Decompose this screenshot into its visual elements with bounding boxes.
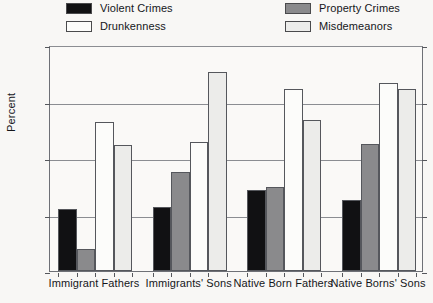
bar-native-born-fathers-violent-crimes xyxy=(247,190,266,271)
bar-chart: Violent Crimes Property Crimes Drunkenne… xyxy=(0,0,433,303)
legend-entry-property-crimes: Property Crimes xyxy=(285,3,400,14)
bar-immigrant-fathers-drunkenness xyxy=(95,122,114,271)
legend-swatch-misdemeanors xyxy=(285,21,311,32)
chart-legend: Violent Crimes Property Crimes Drunkenne… xyxy=(0,0,433,40)
legend-label-property-crimes: Property Crimes xyxy=(319,3,400,14)
y-tick-right-40 xyxy=(422,47,427,48)
legend-label-drunkenness: Drunkenness xyxy=(100,21,166,32)
bar-immigrants-sons-misdemeanors xyxy=(208,72,227,271)
bar-immigrant-fathers-violent-crimes xyxy=(58,209,77,271)
legend-swatch-drunkenness xyxy=(66,21,92,32)
y-axis-title: Percent xyxy=(5,93,17,132)
legend-entry-misdemeanors: Misdemeanors xyxy=(285,21,392,32)
bar-native-borns-sons-violent-crimes xyxy=(342,200,361,271)
bar-native-born-fathers-misdemeanors xyxy=(303,120,322,271)
y-tick-right-0 xyxy=(422,273,427,274)
legend-label-misdemeanors: Misdemeanors xyxy=(319,21,392,32)
x-category-label-2: Immigrants' Sons xyxy=(146,277,232,289)
bar-native-borns-sons-property-crimes xyxy=(361,144,380,271)
bar-native-born-fathers-drunkenness xyxy=(284,89,303,271)
bar-immigrant-fathers-misdemeanors xyxy=(114,145,133,271)
x-category-label-1: Immigrant Fathers xyxy=(49,277,140,289)
bar-native-borns-sons-drunkenness xyxy=(379,83,398,271)
bar-series-layer xyxy=(50,47,422,271)
bar-immigrants-sons-drunkenness xyxy=(190,142,209,271)
bar-immigrants-sons-violent-crimes xyxy=(153,207,172,271)
bar-immigrant-fathers-property-crimes xyxy=(77,249,96,271)
plot-area: 010203040 xyxy=(49,46,423,272)
legend-swatch-property-crimes xyxy=(285,3,311,14)
legend-label-violent-crimes: Violent Crimes xyxy=(100,3,173,14)
y-tick-right-30 xyxy=(422,104,427,105)
x-category-label-4: Native Borns' Sons xyxy=(331,277,426,289)
x-category-label-3: Native Born Fathers xyxy=(233,277,333,289)
y-tick-right-20 xyxy=(422,160,427,161)
bar-native-borns-sons-misdemeanors xyxy=(398,89,417,271)
y-tick-right-10 xyxy=(422,217,427,218)
legend-entry-violent-crimes: Violent Crimes xyxy=(66,3,173,14)
bar-immigrants-sons-property-crimes xyxy=(171,172,190,271)
legend-entry-drunkenness: Drunkenness xyxy=(66,21,166,32)
y-tick-left-0 xyxy=(45,273,50,274)
legend-swatch-violent-crimes xyxy=(66,3,92,14)
bar-native-born-fathers-property-crimes xyxy=(266,187,285,271)
